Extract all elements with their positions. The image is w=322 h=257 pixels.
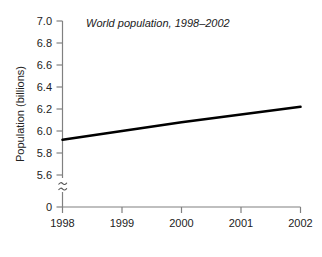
- x-tick-label-2000: 2000: [169, 217, 193, 229]
- x-tick-label-2002: 2002: [288, 217, 312, 229]
- y-tick-label-6.8: 6.8: [37, 37, 52, 49]
- y-tick-label-6.2: 6.2: [37, 103, 52, 115]
- y-tick-label-5.8: 5.8: [37, 147, 52, 159]
- x-tick-label-1999: 1999: [110, 217, 134, 229]
- y-tick-label-0: 0: [46, 201, 52, 213]
- y-tick-label-6.0: 6.0: [37, 125, 52, 137]
- y-tick-label-7.0: 7.0: [37, 15, 52, 27]
- chart-title: World population, 1998–2002: [86, 17, 230, 29]
- line-chart-figure: 7.0 6.8 6.6 6.4 6.2 6.0 5.8 5.6 0 Popula…: [0, 0, 322, 257]
- y-tick-label-6.6: 6.6: [37, 59, 52, 71]
- y-tick-label-6.4: 6.4: [37, 81, 52, 93]
- x-tick-label-1998: 1998: [50, 217, 74, 229]
- y-tick-label-5.6: 5.6: [37, 169, 52, 181]
- y-axis-title: Population (billions): [14, 66, 26, 162]
- chart-canvas: 7.0 6.8 6.6 6.4 6.2 6.0 5.8 5.6 0 Popula…: [0, 0, 322, 257]
- x-tick-label-2001: 2001: [229, 217, 253, 229]
